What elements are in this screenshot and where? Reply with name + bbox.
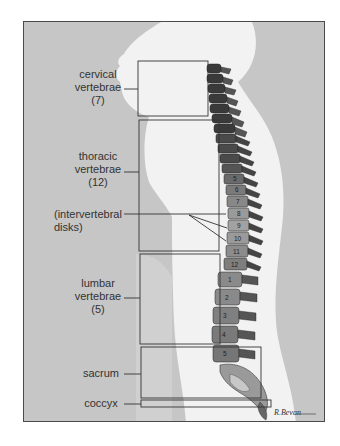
svg-text:3: 3 [223, 312, 227, 319]
illustration-frame: 5 6 7 8 9 10 11 12 1 2 3 4 5 [23, 21, 325, 422]
svg-text:11: 11 [233, 248, 240, 255]
svg-text:9: 9 [237, 222, 241, 229]
svg-text:1: 1 [228, 276, 232, 283]
coccyx-label: coccyx [79, 397, 123, 410]
artist-signature: R.Bevan [273, 408, 301, 417]
thoracic-label: thoracic vertebrae (12) [72, 150, 124, 189]
svg-text:8: 8 [237, 210, 241, 217]
intervertebral-disks-label: (intervertebral disks) [54, 208, 122, 234]
svg-text:10: 10 [234, 235, 242, 242]
svg-text:2: 2 [225, 294, 229, 301]
lumbar-label: lumbar vertebrae (5) [72, 277, 124, 316]
cervical-label: cervical vertebrae (7) [72, 68, 124, 107]
sacrum-label: sacrum [79, 367, 123, 380]
svg-text:5: 5 [233, 175, 237, 182]
svg-text:6: 6 [235, 186, 239, 193]
svg-text:12: 12 [231, 261, 239, 268]
svg-text:4: 4 [222, 331, 226, 338]
svg-text:5: 5 [223, 350, 227, 357]
svg-text:7: 7 [236, 198, 240, 205]
